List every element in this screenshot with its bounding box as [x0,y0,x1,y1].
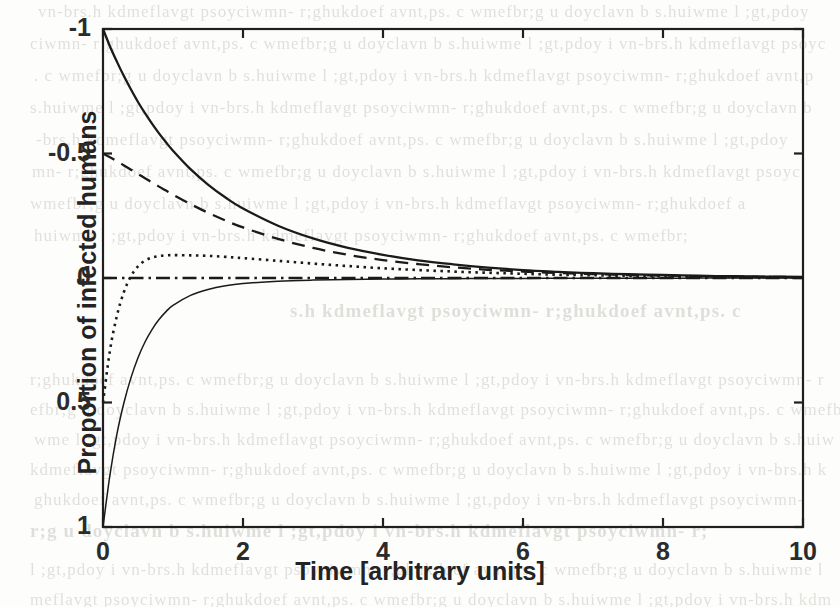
x-tick-label: 2 [203,537,283,566]
x-tick-label: 6 [483,537,563,566]
data-curves [103,29,803,527]
y-tick-label: 1 [7,511,91,540]
y-tick-label: -1 [7,13,91,42]
y-tick-label: -0.5 [7,138,91,167]
x-tick-label: 10 [763,537,840,566]
y-tick-label: 0.5 [7,387,91,416]
curve-solid-thin [103,278,803,527]
plot-canvas [0,0,840,607]
x-tick-label: 8 [623,537,703,566]
figure-plot: Proportion of infected humans Time [arbi… [0,0,840,607]
y-tick-label: 0 [7,262,91,291]
x-tick-label: 0 [63,537,143,566]
curve-dashed [103,154,803,278]
x-tick-label: 4 [343,537,423,566]
scanned-page: vn-brs.h kdmeflavgt psoyciwmn- r;ghukdoe… [0,0,840,607]
curve-solid [103,29,803,277]
